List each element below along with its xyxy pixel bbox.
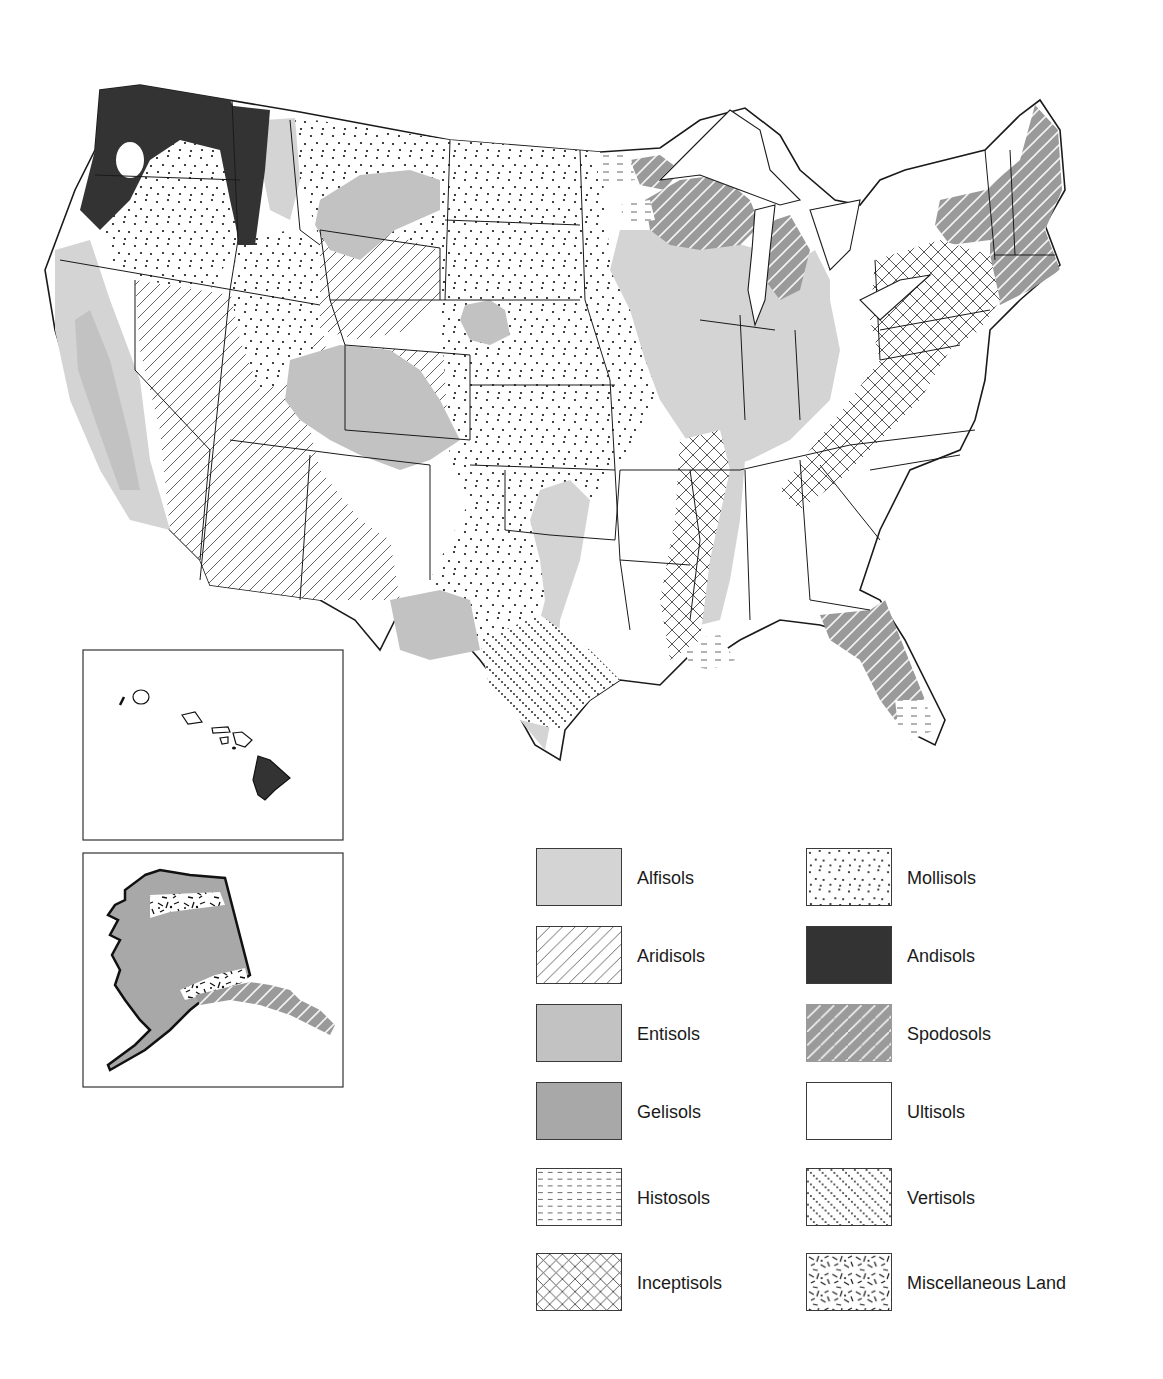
alaska-inset — [83, 853, 343, 1087]
legend-label: Gelisols — [637, 1102, 701, 1123]
legend-label: Miscellaneous Land — [907, 1273, 1066, 1294]
legend-label: Histosols — [637, 1188, 710, 1209]
legend: Alfisols Aridisols Entisols Gelisols — [536, 848, 1136, 1318]
spodosols-swatch — [806, 1004, 892, 1062]
island-kahoolawe — [232, 747, 236, 750]
misc-land-swatch — [806, 1253, 892, 1311]
legend-label: Vertisols — [907, 1188, 975, 1209]
legend-label: Andisols — [907, 946, 975, 967]
region-entisols-texas-sw — [390, 590, 480, 660]
vertisols-swatch — [806, 1168, 892, 1226]
ultisols-swatch — [806, 1082, 892, 1140]
island-kauai — [133, 690, 149, 704]
legend-label: Inceptisols — [637, 1273, 722, 1294]
legend-item-mollisols: Mollisols — [806, 848, 1126, 908]
mollisols-swatch — [806, 848, 892, 906]
region-ultisols-olympic — [116, 142, 144, 178]
gelisols-swatch — [536, 1082, 622, 1140]
histosols-swatch — [536, 1168, 622, 1226]
legend-item-andisols: Andisols — [806, 926, 1126, 986]
island-lanai — [220, 737, 228, 744]
legend-label: Spodosols — [907, 1024, 991, 1045]
legend-label: Entisols — [637, 1024, 700, 1045]
hawaii-inset-frame — [83, 650, 343, 840]
region-histosols-minnesota — [595, 152, 635, 185]
legend-item-misc: Miscellaneous Land — [806, 1253, 1126, 1313]
alfisols-swatch — [536, 848, 622, 906]
entisols-swatch — [536, 1004, 622, 1062]
island-molokai — [212, 727, 230, 733]
legend-label: Aridisols — [637, 946, 705, 967]
legend-item-spodosols: Spodosols — [806, 1004, 1126, 1064]
legend-label: Ultisols — [907, 1102, 965, 1123]
legend-item-vertisols: Vertisols — [806, 1168, 1126, 1228]
legend-label: Alfisols — [637, 868, 694, 889]
legend-label: Mollisols — [907, 868, 976, 889]
andisols-swatch — [806, 926, 892, 984]
hawaii-inset — [83, 650, 343, 840]
inceptisols-swatch — [536, 1253, 622, 1311]
aridisols-swatch — [536, 926, 622, 984]
legend-item-ultisols: Ultisols — [806, 1082, 1126, 1142]
